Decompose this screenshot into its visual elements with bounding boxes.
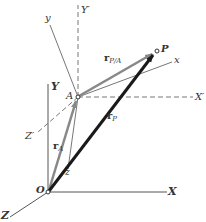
label-y: y [45, 13, 51, 23]
Z-axis [10, 192, 48, 217]
label-r-A: rA [53, 141, 63, 151]
label-Y: Y [51, 81, 59, 92]
point-P-marker [155, 49, 159, 53]
label-X: X [168, 186, 177, 197]
point-O-marker [46, 190, 50, 194]
r-A-sub: A [58, 145, 63, 153]
kinematics-diagram: X Y Z Y′ X′ Z′ y x z O A P rP/A rA rP [0, 0, 206, 222]
label-z: z [65, 168, 70, 177]
label-Z-prime: Z′ [25, 131, 34, 141]
label-x: x [174, 55, 180, 65]
point-A-marker [76, 95, 80, 99]
label-X-prime: X′ [195, 92, 204, 102]
label-Y-prime: Y′ [81, 5, 90, 15]
label-P: P [161, 44, 169, 54]
r-P-sub: P [112, 115, 117, 123]
label-r-P: rP [107, 111, 117, 121]
label-O: O [36, 185, 45, 195]
label-Z: Z [1, 210, 9, 221]
r-PA-sub: P/A [109, 57, 121, 65]
label-A: A [66, 91, 73, 101]
label-r-PA: rP/A [104, 53, 121, 63]
